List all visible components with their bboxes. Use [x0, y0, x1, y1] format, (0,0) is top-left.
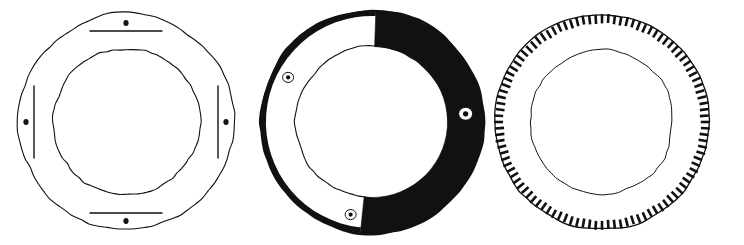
figure-3-tick — [517, 55, 524, 61]
figure-3-tick — [675, 51, 682, 57]
figure-3-tick — [608, 14, 609, 23]
figure-3-tick — [595, 221, 596, 230]
figure-2-perforation-upper-left — [283, 72, 294, 82]
figure-3-radial-tick-band — [494, 14, 710, 230]
figure-1-open-ring-with-four-rivets — [0, 0, 250, 245]
figure-3-tick — [694, 157, 702, 160]
figure-3-tick — [547, 30, 552, 38]
figure-3-tick — [698, 96, 707, 98]
figure-3-tick — [667, 195, 673, 202]
figure-3-tick — [614, 15, 615, 24]
figure-3-tick — [570, 20, 573, 29]
figure-3-tick — [637, 22, 640, 30]
figure-3-tick — [663, 37, 669, 44]
figure-3-tick — [495, 128, 504, 129]
figure-3-tick — [558, 212, 562, 220]
figure-3-tick — [502, 84, 510, 87]
figure-3-tick — [658, 34, 663, 41]
figure-2-perforation-upper-left-centre — [286, 75, 290, 79]
figure-2-perforation-right — [459, 107, 473, 120]
figure-3-tick — [620, 220, 622, 229]
figure-2-perforation-right-centre — [463, 111, 468, 116]
figure-3-tick — [608, 220, 609, 229]
figure-3-tick — [701, 128, 710, 129]
figure-3-tick — [576, 17, 578, 26]
figure-3-tick — [648, 26, 652, 34]
figure-3-tick — [658, 203, 663, 210]
figure-3-tick — [495, 134, 504, 135]
figure-3-tick — [631, 19, 634, 28]
figure-3-tick — [541, 33, 546, 40]
figure-2-perforation-bottom-centre — [349, 212, 353, 216]
figure-3-tick — [522, 187, 529, 193]
figure-3-tick — [564, 214, 567, 222]
figure-3-tick — [672, 192, 678, 198]
figure-3-tick — [696, 151, 705, 154]
figure-3-tick — [694, 84, 702, 87]
figure-3-tick — [642, 24, 646, 32]
figure-1-rivet-dot-right — [223, 119, 228, 125]
figure-3-tick — [686, 67, 694, 72]
figure-3-tick — [696, 90, 705, 93]
figure-1-rivet-dot-left — [23, 119, 28, 125]
artefact-plate — [0, 0, 744, 245]
figure-1-outer-outline — [17, 12, 235, 229]
figure-3-tick — [494, 115, 503, 116]
figure-3-tick — [684, 61, 691, 66]
figure-3-tick — [700, 116, 709, 117]
figure-3-tick — [699, 140, 708, 142]
figure-3-tick — [631, 216, 634, 225]
figure-3-tick — [531, 42, 537, 49]
figure-3-tick — [514, 61, 521, 66]
figure-3-tick — [558, 23, 562, 31]
figure-3-tick — [530, 196, 536, 203]
figure-3-tick — [552, 27, 556, 35]
figure-3-tick — [663, 200, 669, 207]
figure-3-tick — [700, 103, 709, 105]
figure-3-tick — [626, 17, 628, 26]
figure-3-tick — [583, 16, 585, 25]
figure-3-tick — [680, 183, 687, 189]
figure-1-rivet-dot-top — [123, 20, 128, 26]
figure-3-tick — [552, 210, 556, 218]
figure-3-tick — [564, 21, 567, 29]
figure-3-tick — [589, 16, 590, 25]
figure-3-tick — [570, 216, 573, 225]
figure-3-tick — [526, 46, 532, 52]
figure-3-tick — [596, 15, 597, 24]
figure-3-tick — [576, 218, 578, 227]
figure-1-rivet-dot-bottom — [123, 218, 128, 224]
figure-3-tick — [689, 72, 697, 76]
figure-3-tick — [680, 56, 687, 62]
figure-3-tick — [692, 78, 700, 82]
figure-3-tick — [643, 212, 647, 220]
figure-3-tick — [510, 66, 518, 71]
figure-3-tick — [526, 192, 532, 198]
figure-3-tick — [497, 96, 506, 98]
figure-3-tick — [503, 163, 511, 167]
figure-2-part-blackened-ring-with-three-perforations — [250, 0, 494, 245]
figure-2-drawing — [250, 0, 494, 245]
figure-3-tick — [496, 103, 505, 105]
figure-3-ring-with-hatched-outer-rim — [494, 0, 744, 245]
figure-3-tick — [614, 220, 615, 229]
figure-3-tick — [700, 134, 709, 135]
figure-3-tick — [589, 220, 590, 229]
figure-3-tick — [500, 151, 509, 154]
figure-3-tick — [541, 203, 546, 210]
figure-2-black-sector — [360, 11, 483, 234]
figure-3-tick — [583, 219, 585, 228]
figure-3-tick — [626, 218, 628, 227]
figure-3-tick — [504, 78, 512, 82]
figure-3-tick — [620, 17, 622, 26]
figure-3-tick — [648, 209, 652, 217]
figure-3-tick — [496, 140, 505, 142]
figure-2-outer-rim-ink — [261, 11, 376, 233]
figure-3-drawing — [494, 0, 744, 245]
figure-2-perforation-bottom — [345, 210, 356, 220]
figure-3-tick — [521, 50, 528, 56]
figure-3-group — [494, 14, 710, 230]
figure-3-tick — [510, 173, 518, 178]
figure-3-tick — [517, 183, 524, 189]
figure-3-inner-outline — [530, 49, 671, 195]
